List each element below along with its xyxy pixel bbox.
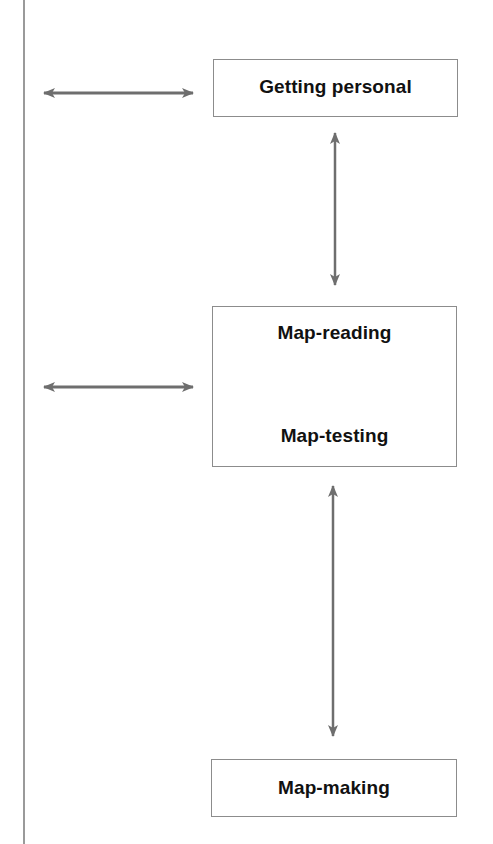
box-label: Getting personal: [214, 76, 457, 98]
box-label-map-reading: Map-reading: [213, 322, 456, 344]
box-label-map-testing: Map-testing: [213, 425, 456, 447]
box-map-making: Map-making: [211, 759, 457, 817]
box-map-reading-testing: Map-reading Map-testing: [212, 306, 457, 467]
box-getting-personal: Getting personal: [213, 59, 458, 117]
box-label: Map-making: [212, 777, 456, 799]
